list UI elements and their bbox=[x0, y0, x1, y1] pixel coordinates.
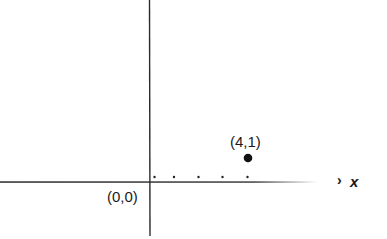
unit-dot bbox=[246, 176, 248, 178]
point-4-1 bbox=[244, 154, 253, 163]
x-axis bbox=[0, 181, 318, 183]
y-axis bbox=[150, 0, 151, 236]
coordinate-plane bbox=[0, 0, 387, 239]
unit-dot bbox=[197, 176, 199, 178]
unit-dot bbox=[173, 176, 175, 178]
point-label: (4,1) bbox=[230, 133, 261, 150]
x-axis-arrow-icon: › bbox=[337, 172, 342, 188]
x-axis-label: x bbox=[350, 173, 358, 190]
unit-dots bbox=[153, 176, 248, 178]
unit-dot bbox=[221, 176, 223, 178]
origin-label: (0,0) bbox=[107, 188, 138, 205]
unit-dot bbox=[153, 176, 155, 178]
